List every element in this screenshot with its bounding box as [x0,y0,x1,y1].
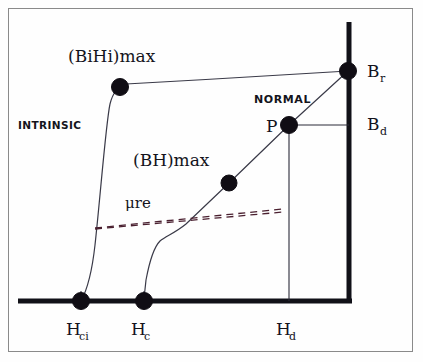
demagnetization-curve-diagram: (BiHi)max (BH)max INTRINSIC NORMAL P μre… [0,0,423,362]
data-points-group [73,63,357,310]
normal-curve [144,71,348,301]
label-hc: H c [131,319,150,343]
label-hci-subscript: ci [79,330,89,343]
label-point-p: P [266,116,277,136]
point-hc[interactable] [136,293,153,310]
figure-root: (BiHi)max (BH)max INTRINSIC NORMAL P μre… [0,0,423,362]
point-bh-max[interactable] [221,175,237,191]
point-br[interactable] [340,63,357,80]
label-mu-re: μre [125,194,151,212]
label-hc-subscript: c [144,330,150,343]
point-bihi-max[interactable] [112,79,129,96]
label-bd: B d [367,114,387,138]
recoil-line-upper [95,209,283,228]
label-hci: H ci [66,319,89,343]
label-intrinsic: INTRINSIC [18,119,81,131]
label-br-subscript: r [380,72,386,85]
label-hd: H d [276,319,296,343]
label-bh-max: (BH)max [133,150,210,170]
label-bd-base: B [367,114,380,134]
label-bd-subscript: d [380,125,387,138]
label-br-base: B [367,61,380,81]
leader-lines-group [81,125,349,301]
recoil-lines-group [95,209,283,229]
point-p[interactable] [281,117,298,134]
label-bihi-max: (BiHi)max [68,46,156,66]
label-br: B r [367,61,386,85]
label-hd-subscript: d [289,330,296,343]
point-hci[interactable] [73,293,90,310]
label-normal: NORMAL [254,93,311,106]
